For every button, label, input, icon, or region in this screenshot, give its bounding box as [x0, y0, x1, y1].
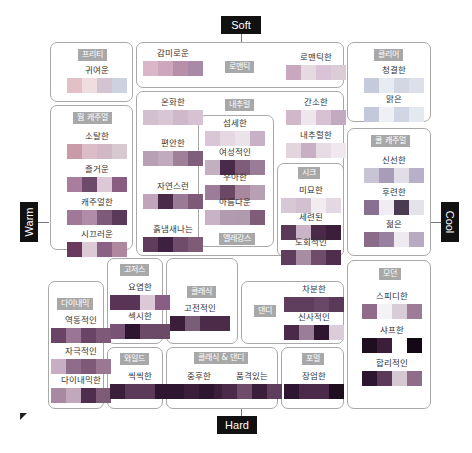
- word-label: 소탈한: [85, 130, 109, 142]
- color-swatch-row: [205, 131, 265, 146]
- word-label: 감미로운: [157, 47, 189, 59]
- word-item: 미묘한: [281, 184, 341, 213]
- color-swatch: [112, 177, 127, 192]
- word-label: 여성적인: [219, 146, 251, 158]
- word-label: 섬세한: [223, 117, 247, 129]
- color-swatch: [284, 297, 299, 312]
- color-swatch: [364, 168, 379, 183]
- color-swatch: [82, 242, 97, 257]
- color-swatch-row: [364, 232, 424, 247]
- word-label: 자연스런: [157, 180, 189, 192]
- color-swatch: [250, 210, 265, 225]
- color-swatch-row: [169, 384, 229, 399]
- color-swatch: [97, 144, 112, 159]
- color-swatch: [235, 131, 250, 146]
- color-swatch: [110, 384, 125, 399]
- color-swatch: [66, 359, 81, 374]
- group-label-natural: 내추럴: [225, 99, 254, 111]
- word-label: 중후한: [187, 370, 211, 382]
- color-swatch: [140, 324, 155, 339]
- color-swatch-row: [51, 359, 111, 374]
- color-swatch-row: [143, 61, 203, 76]
- word-item: 품격있는: [222, 370, 282, 399]
- group-label-classic: 클래식: [187, 286, 216, 298]
- color-swatch: [379, 200, 394, 215]
- color-swatch: [173, 110, 188, 125]
- group-label-clear: 클리어: [374, 49, 403, 61]
- color-swatch: [188, 194, 203, 209]
- axis-text-warm: Warm: [23, 208, 35, 237]
- corner-triangle-icon: [20, 413, 27, 420]
- word-item: 맑은: [364, 93, 424, 122]
- word-label: 내추럴한: [300, 129, 332, 141]
- word-label: 고전적인: [184, 302, 216, 314]
- color-swatch: [143, 61, 158, 76]
- group-box-classic: [166, 258, 238, 344]
- axis-label-cool: Cool: [441, 202, 459, 242]
- word-label: 다이내믹한: [61, 374, 101, 386]
- word-label: 자극적인: [65, 345, 97, 357]
- word-label: 장엄한: [302, 370, 326, 382]
- color-swatch: [66, 328, 81, 343]
- color-swatch-row: [362, 304, 422, 319]
- color-swatch-row: [362, 338, 422, 353]
- color-swatch: [67, 78, 82, 93]
- color-swatch-row: [143, 194, 203, 209]
- color-swatch: [364, 107, 379, 122]
- word-label: 스피디한: [376, 290, 408, 302]
- word-label: 편안한: [161, 137, 185, 149]
- color-swatch: [364, 232, 379, 247]
- word-item: 합리적인: [362, 357, 422, 386]
- word-item: 소탈한: [67, 130, 127, 159]
- group-label-gorgeous: 고저스: [120, 264, 149, 276]
- group-label-cool-casual: 쿨 캐주얼: [371, 135, 410, 147]
- word-label: 차분한: [302, 283, 326, 295]
- color-swatch: [81, 328, 96, 343]
- color-swatch: [409, 168, 424, 183]
- word-item: 섹시한: [110, 310, 170, 339]
- axis-line-left: [38, 222, 49, 223]
- color-swatch-row: [143, 151, 203, 166]
- word-item: 편안한: [143, 137, 203, 166]
- color-swatch: [267, 384, 282, 399]
- color-swatch: [205, 210, 220, 225]
- color-swatch: [379, 232, 394, 247]
- color-swatch: [407, 371, 422, 386]
- color-swatch: [394, 200, 409, 215]
- color-swatch: [301, 65, 316, 80]
- group-label-dandy: 댄디: [254, 305, 276, 317]
- color-swatch: [299, 325, 314, 340]
- color-swatch: [155, 384, 170, 399]
- axis-label-soft: Soft: [221, 16, 261, 34]
- color-swatch-row: [284, 325, 344, 340]
- color-swatch: [67, 144, 82, 159]
- color-swatch: [362, 304, 377, 319]
- color-swatch: [379, 78, 394, 93]
- axis-text-cool: Cool: [444, 211, 456, 234]
- color-swatch: [215, 316, 230, 331]
- color-swatch: [51, 328, 66, 343]
- color-swatch: [199, 384, 214, 399]
- color-swatch: [407, 304, 422, 319]
- color-swatch: [188, 110, 203, 125]
- color-swatch-row: [67, 177, 127, 192]
- word-item: 역동적인: [51, 314, 111, 343]
- word-label: 맑은: [386, 93, 402, 105]
- color-swatch: [143, 237, 158, 252]
- word-item: 고전적인: [170, 302, 230, 331]
- color-swatch: [409, 232, 424, 247]
- word-label: 신사적인: [298, 311, 330, 323]
- word-label: 후련한: [382, 186, 406, 198]
- color-swatch: [66, 388, 81, 403]
- color-swatch-row: [67, 210, 127, 225]
- color-swatch: [252, 384, 267, 399]
- color-swatch: [200, 316, 215, 331]
- word-label: 캐주얼한: [81, 196, 113, 208]
- color-swatch: [409, 200, 424, 215]
- group-label-modern: 모던: [379, 268, 401, 280]
- color-swatch: [158, 61, 173, 76]
- color-swatch: [143, 151, 158, 166]
- color-swatch: [392, 338, 407, 353]
- color-swatch: [284, 384, 299, 399]
- color-swatch: [51, 359, 66, 374]
